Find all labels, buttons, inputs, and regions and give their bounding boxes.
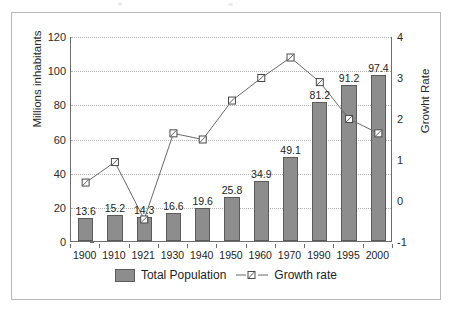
bar-value-label: 34.9: [245, 169, 277, 180]
bar-value-label: 25.8: [216, 185, 248, 196]
chart-figure-frame: Millions inhabitants Growht Rate 1201008…: [11, 12, 441, 300]
y-axis-right-ticks: 43210-1: [397, 37, 423, 242]
bar-value-label: 91.2: [333, 73, 365, 84]
x-axis-tick-label: 1940: [186, 250, 218, 261]
growth-rate-marker: [258, 75, 265, 82]
growth-rate-marker: [141, 216, 148, 223]
growth-rate-marker: [170, 130, 177, 137]
bar-value-label: 14.3: [128, 205, 160, 216]
x-axis-tick-mark: [246, 244, 247, 248]
x-axis-tick-mark: [187, 244, 188, 248]
legend-entry-growth-rate: Growth rate: [236, 268, 337, 282]
x-axis-tick-label: 1900: [69, 250, 101, 261]
x-axis-tick-mark: [275, 244, 276, 248]
chart-legend: Total Population Growth rate: [12, 268, 440, 282]
x-axis-tick-label: 1950: [215, 250, 247, 261]
legend-label-total-population: Total Population: [141, 268, 226, 282]
bar-value-label: 13.6: [70, 206, 102, 217]
x-axis-tick-mark: [333, 244, 334, 248]
scan-artifact-2: [228, 3, 233, 6]
growth-rate-marker: [82, 179, 89, 186]
y-axis-right-tick-label: 2: [397, 114, 403, 125]
x-axis-tick-label: 2000: [361, 250, 393, 261]
x-axis-tick-mark: [392, 244, 393, 248]
growth-rate-marker: [199, 136, 206, 143]
x-axis-tick-label: 1990: [303, 250, 335, 261]
growth-rate-marker: [346, 116, 353, 123]
bar-value-label: 19.6: [187, 196, 219, 207]
legend-label-growth-rate: Growth rate: [274, 268, 337, 282]
x-axis-labels: 1900191019211930194019501960197019901995…: [70, 244, 392, 262]
growth-rate-marker: [316, 79, 323, 86]
y-axis-right-tick-label: 3: [397, 73, 403, 84]
x-axis-tick-label: 1995: [332, 250, 364, 261]
bar-value-label: 81.2: [304, 90, 336, 101]
scan-artifact-1: [118, 2, 122, 6]
x-axis-tick-mark: [158, 244, 159, 248]
bar-value-label: 16.6: [157, 201, 189, 212]
y-axis-left-tick-label: 20: [54, 202, 66, 213]
y-axis-right-tick-label: 4: [397, 32, 403, 43]
growth-rate-marker: [287, 54, 294, 61]
x-axis-tick-mark: [99, 244, 100, 248]
bar-value-label: 15.2: [99, 203, 131, 214]
bar-value-label: 49.1: [275, 145, 307, 156]
y-axis-right-tick-label: 0: [397, 196, 403, 207]
legend-line-swatch-icon: [236, 270, 268, 280]
legend-entry-total-population: Total Population: [115, 268, 226, 282]
x-axis-tick-label: 1930: [156, 250, 188, 261]
x-axis-tick-label: 1921: [127, 250, 159, 261]
y-axis-left-tick-label: 80: [54, 100, 66, 111]
legend-bar-swatch-icon: [115, 269, 135, 282]
plot-area: 13.615.214.316.619.625.834.949.181.291.2…: [70, 37, 392, 242]
y-axis-left-tick-label: 120: [48, 32, 66, 43]
y-axis-left-ticks: 120100806040200: [32, 37, 66, 242]
x-axis-tick-label: 1970: [274, 250, 306, 261]
x-axis-tick-mark: [304, 244, 305, 248]
y-axis-left-tick-label: 40: [54, 168, 66, 179]
growth-rate-marker: [375, 130, 382, 137]
x-axis-tick-mark: [129, 244, 130, 248]
y-axis-left-tick-label: 60: [54, 134, 66, 145]
x-axis-tick-label: 1960: [244, 250, 276, 261]
y-axis-left-tick-label: 100: [48, 66, 66, 77]
x-axis-tick-mark: [216, 244, 217, 248]
x-axis-tick-label: 1910: [98, 250, 130, 261]
x-axis-tick-mark: [363, 244, 364, 248]
x-axis-tick-mark: [70, 244, 71, 248]
growth-rate-marker: [229, 97, 236, 104]
y-axis-left-tick-label: 0: [60, 237, 66, 248]
growth-rate-marker: [111, 159, 118, 166]
bar-value-label: 97.4: [362, 63, 394, 74]
y-axis-right-tick-label: 1: [397, 155, 403, 166]
y-axis-right-tick-label: -1: [397, 237, 407, 248]
y-axis-left-tick-mark: [90, 242, 94, 243]
